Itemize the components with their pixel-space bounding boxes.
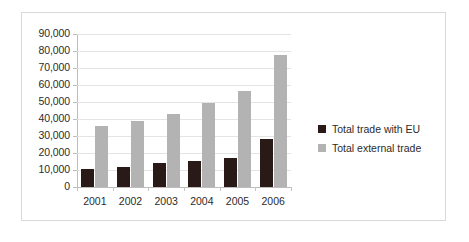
bar-2002-eu[interactable] [117,167,130,187]
legend-item-total-external-trade[interactable]: Total external trade [318,138,421,157]
bar-2004-external[interactable] [202,103,215,187]
y-axis-tick-mark [73,153,77,154]
chart-legend: Total trade with EU Total external trade [318,119,421,157]
bar-2001-external[interactable] [95,126,108,187]
legend-item-total-trade-with-eu[interactable]: Total trade with EU [318,119,421,138]
bar-group [153,34,180,187]
bar-group [260,34,287,187]
bar-group [188,34,215,187]
legend-label-total-trade-with-eu: Total trade with EU [332,123,420,135]
x-axis-tick-mark [113,187,114,191]
y-axis-tick-label: 20,000 [38,146,70,158]
chart-frame: 90,00080,00070,00060,00050,00040,00030,0… [21,12,446,221]
x-axis-label-2005: 2005 [220,195,256,207]
y-axis-tick-mark [73,68,77,69]
bar-group [224,34,251,187]
x-axis-tick-mark [255,187,256,191]
y-axis-tick-label: 30,000 [38,129,70,141]
y-axis-tick-mark [73,51,77,52]
bar-2006-external[interactable] [274,55,287,187]
legend-label-total-external-trade: Total external trade [332,142,421,154]
y-axis-tick-mark [73,170,77,171]
bar-2001-eu[interactable] [81,169,94,187]
bar-2003-eu[interactable] [153,163,166,187]
x-axis-tick-mark [184,187,185,191]
plot-area: 200120022003200420052006 [77,34,291,187]
y-axis-tick-mark [73,85,77,86]
y-axis-tick-label: 60,000 [38,78,70,90]
y-axis-tick-label: 10,000 [38,163,70,175]
x-axis-label-2003: 2003 [148,195,184,207]
x-axis-label-2002: 2002 [113,195,149,207]
bar-2005-eu[interactable] [224,158,237,187]
y-axis-tick-mark [73,102,77,103]
x-axis-tick-mark [220,187,221,191]
bar-2003-external[interactable] [167,114,180,187]
x-axis-tick-mark [148,187,149,191]
x-axis-label-2006: 2006 [255,195,291,207]
y-axis-labels: 90,00080,00070,00060,00050,00040,00030,0… [22,13,70,220]
x-axis-tick-mark [291,187,292,191]
bar-group [117,34,144,187]
y-axis-tick-mark [73,187,77,188]
y-axis-tick-label: 40,000 [38,112,70,124]
bar-group [81,34,108,187]
bar-2004-eu[interactable] [188,161,201,187]
legend-swatch-icon-total-trade-with-eu [318,125,326,133]
y-axis-tick-label: 50,000 [38,95,70,107]
x-axis-tick-mark [77,187,78,191]
y-axis-tick-mark [73,119,77,120]
y-axis-tick-label: 70,000 [38,61,70,73]
legend-swatch-icon-total-external-trade [318,144,326,152]
y-axis-tick-label: 0 [64,180,70,192]
y-axis-tick-label: 80,000 [38,44,70,56]
y-axis-tick-label: 90,000 [38,27,70,39]
x-axis-label-2004: 2004 [184,195,220,207]
y-axis-tick-mark [73,136,77,137]
bar-2005-external[interactable] [238,91,251,187]
x-axis-label-2001: 2001 [77,195,113,207]
bar-2002-external[interactable] [131,121,144,187]
y-axis-tick-mark [73,34,77,35]
bar-2006-eu[interactable] [260,139,273,187]
